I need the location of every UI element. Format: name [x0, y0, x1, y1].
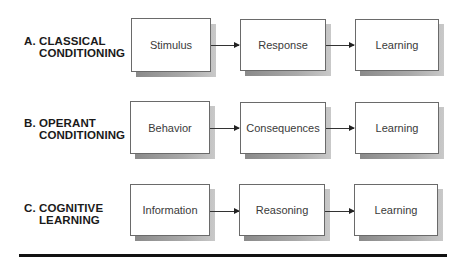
- row-letter: C.: [24, 202, 39, 214]
- box-label: Learning: [376, 122, 419, 134]
- row-label-c: C.COGNITIVE LEARNING: [24, 202, 103, 226]
- box-label: Learning: [376, 39, 419, 51]
- arrow-right-icon: [210, 128, 239, 129]
- row-label-line2: CONDITIONING: [24, 47, 125, 59]
- bottom-rule-divider: [19, 254, 447, 257]
- box-label: Stimulus: [150, 39, 192, 51]
- box-reasoning: Reasoning: [239, 184, 325, 236]
- row-label-line1: OPERANT: [39, 117, 96, 129]
- box-label: Learning: [375, 204, 418, 216]
- box-consequences: Consequences: [240, 102, 326, 154]
- row-label-line2: LEARNING: [24, 214, 103, 226]
- row-label-line2: CONDITIONING: [24, 129, 125, 141]
- arrow-right-icon: [210, 211, 239, 212]
- box-stimulus: Stimulus: [131, 18, 211, 72]
- box-behavior: Behavior: [130, 101, 210, 154]
- box-label: Reasoning: [256, 204, 309, 216]
- box-response: Response: [240, 19, 326, 71]
- arrow-right-icon: [326, 45, 354, 46]
- box-label: Response: [258, 39, 308, 51]
- row-label-line1: CLASSICAL: [39, 35, 106, 47]
- box-learning: Learning: [355, 19, 439, 71]
- arrow-right-icon: [326, 128, 354, 129]
- box-learning: Learning: [355, 102, 439, 154]
- box-label: Information: [142, 204, 197, 216]
- box-information: Information: [130, 184, 210, 236]
- arrow-right-icon: [325, 211, 354, 212]
- arrow-right-icon: [211, 45, 239, 46]
- row-label-a: A.CLASSICAL CONDITIONING: [24, 35, 125, 59]
- row-letter: A.: [24, 35, 39, 47]
- box-label: Behavior: [148, 122, 191, 134]
- row-label-line1: COGNITIVE: [39, 202, 103, 214]
- row-label-b: B.OPERANT CONDITIONING: [24, 117, 125, 141]
- box-learning: Learning: [354, 184, 438, 236]
- row-letter: B.: [24, 117, 39, 129]
- box-label: Consequences: [246, 122, 319, 134]
